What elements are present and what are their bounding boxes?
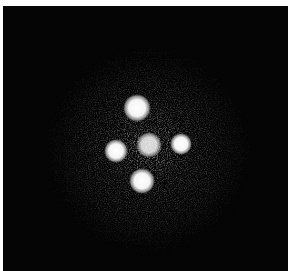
spot-left: [104, 139, 128, 163]
spot-top: [123, 94, 151, 122]
image-canvas: [3, 6, 288, 271]
astronomical-image: [3, 6, 288, 271]
spot-bottom: [129, 168, 155, 194]
spot-center: [136, 132, 162, 158]
spot-right: [170, 133, 192, 155]
